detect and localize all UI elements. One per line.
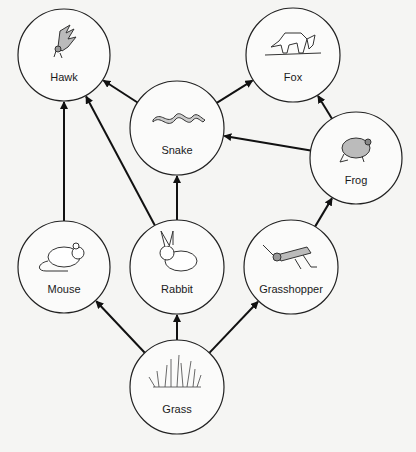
arrow-grass-to-grasshopper (209, 302, 258, 353)
nodes-layer: Hawk Fox Snake Frog Mouse Rabbit Grassho… (18, 8, 402, 434)
grass-label: Grass (162, 403, 192, 415)
snake-label: Snake (161, 144, 192, 156)
food-web-diagram: Hawk Fox Snake Frog Mouse Rabbit Grassho… (0, 0, 416, 452)
mouse-label: Mouse (47, 283, 80, 295)
arrow-grass-to-mouse (96, 301, 145, 353)
arrow-frog-to-snake (224, 136, 310, 150)
node-grass: Grass (130, 340, 224, 434)
hawk-circle (18, 9, 110, 101)
node-fox: Fox (246, 8, 340, 102)
fox-label: Fox (284, 71, 303, 83)
frog-label: Frog (345, 174, 368, 186)
fox-circle (246, 8, 340, 102)
snake-circle (130, 81, 224, 175)
node-snake: Snake (130, 81, 224, 175)
hawk-label: Hawk (50, 71, 78, 83)
arrow-snake-to-fox (217, 81, 253, 103)
node-frog: Frog (310, 112, 402, 204)
food-web-canvas: Hawk Fox Snake Frog Mouse Rabbit Grassho… (0, 0, 416, 452)
rabbit-label: Rabbit (161, 283, 193, 295)
node-mouse: Mouse (18, 221, 110, 313)
grasshopper-circle (244, 220, 338, 314)
node-rabbit: Rabbit (130, 220, 224, 314)
arrow-snake-to-hawk (103, 81, 137, 103)
node-hawk: Hawk (18, 9, 110, 101)
arrow-grasshopper-to-frog (315, 198, 332, 226)
grasshopper-label: Grasshopper (259, 283, 323, 295)
node-grasshopper: Grasshopper (244, 220, 338, 314)
arrow-frog-to-fox (318, 96, 332, 119)
